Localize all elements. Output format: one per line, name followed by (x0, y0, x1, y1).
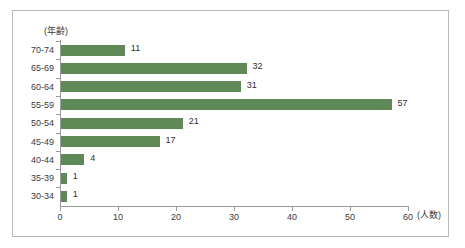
bar (61, 154, 84, 165)
bar (61, 63, 247, 74)
bar-value-label: 11 (131, 43, 140, 53)
bar-value-label: 32 (253, 61, 263, 71)
y-axis-tick (56, 169, 60, 170)
bar (61, 99, 392, 110)
bar-row: 11 (61, 41, 409, 59)
y-axis-tick (56, 78, 60, 79)
bar-value-label: 1 (73, 189, 78, 199)
bar (61, 173, 67, 184)
bar-value-label: 1 (73, 171, 78, 181)
x-axis-tick-label: 50 (335, 212, 365, 222)
y-axis-tick (56, 151, 60, 152)
y-axis-tick (56, 114, 60, 115)
x-axis-tick (292, 207, 293, 211)
bar-row: 1 (61, 169, 409, 187)
x-axis-tick-label: 0 (45, 212, 75, 222)
bar-value-label: 4 (90, 153, 95, 163)
x-axis-tick (408, 207, 409, 211)
y-axis-tick (56, 187, 60, 188)
x-axis-tick (234, 207, 235, 211)
y-axis-tick-label: 50-54 (8, 118, 54, 128)
x-axis-tick-label: 10 (103, 212, 133, 222)
bar-value-label: 21 (189, 116, 199, 126)
y-axis-tick (56, 96, 60, 97)
y-axis-tick (56, 41, 60, 42)
y-axis-tick (56, 59, 60, 60)
x-axis-tick (118, 207, 119, 211)
y-axis-tick-label: 60-64 (8, 82, 54, 92)
bar-row: 32 (61, 59, 409, 77)
bar (61, 118, 183, 129)
y-axis-tick-label: 40-44 (8, 155, 54, 165)
bar (61, 81, 241, 92)
bar (61, 191, 67, 202)
bar-row: 31 (61, 78, 409, 96)
x-axis-tick-label: 20 (161, 212, 191, 222)
bar-row: 17 (61, 133, 409, 151)
bar-value-label: 17 (166, 135, 176, 145)
bar (61, 136, 160, 147)
bar-value-label: 57 (398, 98, 408, 108)
x-axis-tick (176, 207, 177, 211)
x-axis-tick (60, 207, 61, 211)
y-axis-tick-label: 30-34 (8, 191, 54, 201)
bar (61, 45, 125, 56)
y-axis-tick-label: 45-49 (8, 137, 54, 147)
y-axis-tick-label: 70-74 (8, 45, 54, 55)
x-axis-tick-label: 40 (277, 212, 307, 222)
chart-figure: (年齢) (人数) 0102030405060 70-7465-6960-645… (0, 0, 465, 248)
y-axis-title: (年齢) (44, 24, 68, 37)
x-axis-tick-label: 60 (393, 212, 423, 222)
x-axis-tick (350, 207, 351, 211)
bar-row: 1 (61, 187, 409, 205)
y-axis-tick-label: 55-59 (8, 100, 54, 110)
x-axis-tick-label: 30 (219, 212, 249, 222)
y-axis-tick (56, 133, 60, 134)
y-axis-tick-label: 35-39 (8, 173, 54, 183)
plot-area: 113231572117411 (61, 41, 409, 206)
bar-value-label: 31 (247, 80, 257, 90)
bar-row: 4 (61, 151, 409, 169)
bar-row: 57 (61, 96, 409, 114)
y-axis-tick-label: 65-69 (8, 63, 54, 73)
bar-row: 21 (61, 114, 409, 132)
